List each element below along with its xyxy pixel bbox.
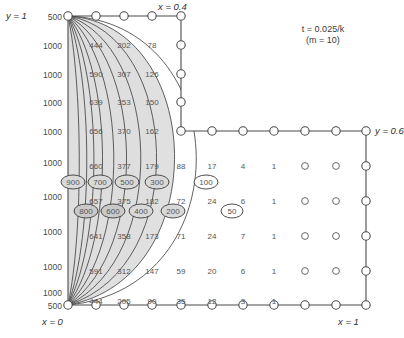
row-label: 500 <box>28 301 62 311</box>
contour-label: 400 <box>129 207 153 216</box>
annotation-line-1: t = 0.025/k <box>268 24 378 35</box>
nodal-value: 358 <box>112 232 136 241</box>
contour-label-50: 50 <box>220 207 244 216</box>
nodal-value: 162 <box>140 127 164 136</box>
nodal-value: 12 <box>200 297 224 306</box>
nodal-value: 90 <box>140 297 164 306</box>
nodal-value: 660 <box>84 162 108 171</box>
contour-label: 900 <box>61 178 85 187</box>
nodal-value: 173 <box>140 232 164 241</box>
nodal-value: 59 <box>169 267 193 276</box>
nodal-value: 24 <box>200 197 224 206</box>
nodal-value: 126 <box>140 70 164 79</box>
row-label: 1000 <box>28 70 62 80</box>
axis-label-bottom-left: x = 0 <box>42 317 63 327</box>
nodal-value: 1 <box>262 162 286 171</box>
row-label: 1000 <box>28 98 62 108</box>
nodal-value: 205 <box>112 297 136 306</box>
row-label: 1000 <box>28 127 62 137</box>
contour-label: 200 <box>161 207 185 216</box>
nodal-value: 88 <box>169 162 193 171</box>
row-label: 1000 <box>28 158 62 168</box>
nodal-value: 7 <box>231 232 255 241</box>
nodal-value: 639 <box>84 98 108 107</box>
nodal-value: 591 <box>84 267 108 276</box>
row-label: 500 <box>28 12 62 22</box>
nodal-value: 6 <box>231 197 255 206</box>
nodal-value: 35 <box>169 297 193 306</box>
contour-label: 600 <box>101 207 125 216</box>
nodal-value: 377 <box>112 162 136 171</box>
nodal-value: 179 <box>140 162 164 171</box>
row-label: 1000 <box>28 262 62 272</box>
nodal-value: 150 <box>140 98 164 107</box>
nodal-value: 312 <box>112 267 136 276</box>
nodal-value: 1 <box>262 197 286 206</box>
axis-label-bottom-right: x = 1 <box>338 317 359 327</box>
nodal-value: 71 <box>169 232 193 241</box>
nodal-value: 78 <box>140 41 164 50</box>
axis-label-top-left: y = 1 <box>6 11 27 21</box>
nodal-value: 17 <box>200 162 224 171</box>
nodal-value: 657 <box>84 197 108 206</box>
nodal-value: 147 <box>140 267 164 276</box>
nodal-value: 202 <box>112 41 136 50</box>
parameter-annotation: t = 0.025/k (m = 10) <box>268 24 378 47</box>
nodal-value: 24 <box>200 232 224 241</box>
nodal-value: 3 <box>231 297 255 306</box>
axis-label-right: y = 0.6 <box>375 126 404 136</box>
annotation-line-2: (m = 10) <box>268 35 378 46</box>
nodal-value: 590 <box>84 70 108 79</box>
nodal-value: 4 <box>231 162 255 171</box>
nodal-value: 444 <box>84 297 108 306</box>
row-label: 1000 <box>28 192 62 202</box>
row-label: 1000 <box>28 288 62 298</box>
nodal-value: 353 <box>112 98 136 107</box>
nodal-value: 182 <box>140 197 164 206</box>
nodal-value: 6 <box>231 267 255 276</box>
nodal-value: 1 <box>262 297 286 306</box>
nodal-value: 641 <box>84 232 108 241</box>
row-label: 1000 <box>28 41 62 51</box>
nodal-value: 20 <box>200 267 224 276</box>
row-label: 1000 <box>28 227 62 237</box>
zero-node-group <box>302 163 340 275</box>
nodal-value: 656 <box>84 127 108 136</box>
contour-label: 300 <box>145 178 169 187</box>
nodal-value: 72 <box>169 197 193 206</box>
nodal-value: 1 <box>262 267 286 276</box>
nodal-value: 444 <box>84 41 108 50</box>
nodal-value: 1 <box>262 232 286 241</box>
contour-label: 700 <box>88 178 112 187</box>
contour-label: 800 <box>74 207 98 216</box>
nodal-value: 375 <box>112 197 136 206</box>
axis-label-top-right: x = 0.4 <box>158 2 187 12</box>
contour-label: 500 <box>115 178 139 187</box>
nodal-value: 307 <box>112 70 136 79</box>
nodal-value: 370 <box>112 127 136 136</box>
contour-label: 100 <box>194 178 218 187</box>
